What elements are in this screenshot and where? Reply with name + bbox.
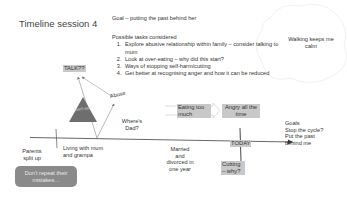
tasks-heading: Possible tasks considered — [112, 34, 282, 41]
repeat-mistakes-note: Don't repeat their mistakes… — [15, 166, 77, 187]
task-item: Look at over-eating – why did this start… — [123, 56, 282, 63]
repeat-mistakes-text: Don't repeat their mistakes… — [15, 170, 77, 183]
living-label: Living with mum and grampa — [63, 145, 111, 158]
goal-text: Goal – putting the past behind her — [112, 15, 196, 21]
page-title: Timeline session 4 — [19, 18, 97, 29]
timeline-axis — [30, 138, 292, 143]
task-item: Ways of stopping self-harm/cutting — [123, 63, 282, 70]
goals-item: Put the past behind me — [285, 133, 325, 146]
cloud-note: Walking keeps me calm — [283, 36, 339, 49]
tasks-list: Possible tasks considered Explore abusiv… — [112, 34, 282, 78]
goals-heading: Goals — [285, 120, 325, 127]
today-label: TODAY — [230, 140, 251, 147]
goals-item: Stop the cycle? — [285, 127, 325, 134]
wheres-dad-label: Where's Dad? — [116, 118, 148, 131]
eating-label: Eating too much — [177, 104, 211, 118]
task-item: Explore abusive relationship within fami… — [123, 41, 282, 56]
talk-label: TALK?? — [63, 65, 86, 72]
task-item: Get better at recognising anger and how … — [123, 70, 282, 77]
married-label: Married and divorced in one year — [166, 146, 194, 172]
cutting-label: Cutting – why? — [221, 161, 245, 175]
timeline-tick-parents — [56, 129, 57, 148]
parents-label: Parents split up — [18, 148, 46, 161]
angry-label: Angry all the time — [222, 104, 260, 118]
arrow-abuse-to-talk — [82, 77, 113, 97]
goals-block: Goals Stop the cycle? Put the past behin… — [285, 120, 325, 146]
arrow-to-abuse — [97, 104, 114, 138]
